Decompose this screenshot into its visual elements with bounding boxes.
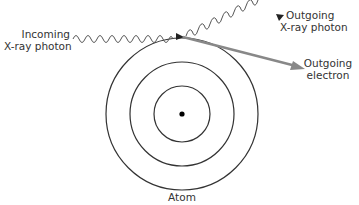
incoming-label-line1: Incoming [4, 28, 70, 40]
outgoing-electron-label-line1: Outgoing [300, 57, 356, 69]
outgoing-photon-wave [186, 0, 283, 36]
incoming-label-line2: X-ray photon [4, 40, 70, 52]
incoming-photon-label: Incoming X-ray photon [4, 28, 70, 52]
electron-path [183, 37, 296, 66]
atom-label: Atom [162, 191, 202, 203]
outgoing-photon-label: Outgoing X-ray photon [280, 9, 348, 33]
outgoing-photon-label-line1: Outgoing [280, 9, 348, 21]
incoming-photon-arrowhead [176, 33, 184, 40]
nucleus [179, 111, 184, 116]
outgoing-photon-label-line2: X-ray photon [280, 21, 348, 33]
outgoing-electron-label: Outgoing electron [300, 57, 356, 81]
outgoing-electron-label-line2: electron [300, 69, 356, 81]
